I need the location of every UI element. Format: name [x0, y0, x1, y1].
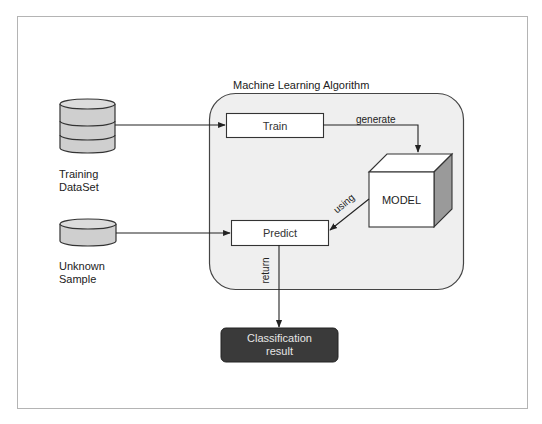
- container-title: Machine Learning Algorithm: [233, 79, 369, 92]
- classification-result-line1: Classification: [247, 332, 312, 345]
- unknown-sample-label-line2: Sample: [59, 273, 105, 286]
- train-label: Train: [227, 114, 323, 137]
- model-label: MODEL: [369, 172, 434, 227]
- unknown-sample-label: Unknown Sample: [59, 260, 105, 286]
- diagram-canvas: Machine Learning Algorithm Training Data…: [0, 0, 542, 424]
- training-dataset-label-line1: Training: [59, 168, 99, 181]
- classification-result-label: Classification result: [221, 328, 338, 362]
- training-dataset-label: Training DataSet: [59, 168, 99, 194]
- training-dataset-label-line2: DataSet: [59, 181, 99, 194]
- unknown-sample-cylinder-icon: [60, 219, 116, 246]
- unknown-sample-label-line1: Unknown: [59, 260, 105, 273]
- predict-label: Predict: [232, 221, 328, 245]
- edge-label-generate: generate: [356, 113, 395, 126]
- edge-label-return: return: [259, 257, 272, 283]
- classification-result-line2: result: [266, 345, 293, 358]
- training-dataset-cylinder-icon: [60, 99, 115, 153]
